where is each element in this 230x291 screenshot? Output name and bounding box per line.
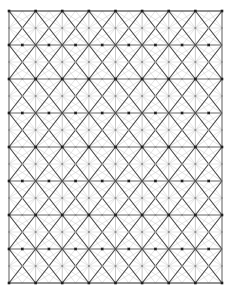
cell-center-dot xyxy=(128,197,130,199)
cell-center-dot xyxy=(75,163,77,165)
edge-midpoint-dot xyxy=(221,197,223,199)
mesh-node xyxy=(128,248,131,251)
mesh-node xyxy=(167,282,170,285)
cell-center-dot xyxy=(155,95,157,97)
edge-midpoint-dot xyxy=(48,282,50,284)
cell-center-dot xyxy=(101,61,103,63)
mesh-node xyxy=(88,78,91,81)
edge-midpoint-dot xyxy=(141,197,143,199)
mesh-node xyxy=(8,180,11,183)
cell-center-dot xyxy=(101,129,103,131)
cell-center-dot xyxy=(48,61,50,63)
edge-midpoint-dot xyxy=(115,61,117,63)
edge-midpoint-dot xyxy=(21,146,23,148)
edge-midpoint-dot xyxy=(88,231,90,233)
mesh-node xyxy=(207,112,210,115)
mesh-node xyxy=(128,112,131,115)
cell-center-dot xyxy=(48,265,50,267)
edge-midpoint-dot xyxy=(208,78,210,80)
cell-center-dot xyxy=(101,231,103,233)
edge-midpoint-dot xyxy=(168,129,170,131)
cell-center-dot xyxy=(208,265,210,267)
cell-center-dot xyxy=(21,129,23,131)
edge-midpoint-dot xyxy=(35,231,37,233)
edge-midpoint-dot xyxy=(168,61,170,63)
mesh-node xyxy=(8,146,11,149)
edge-midpoint-dot xyxy=(141,95,143,97)
mesh-node xyxy=(8,10,11,13)
cell-center-dot xyxy=(21,163,23,165)
cell-center-dot xyxy=(128,231,130,233)
mesh-node xyxy=(34,78,37,81)
mesh-node xyxy=(88,146,91,149)
mesh-node xyxy=(221,78,224,81)
edge-midpoint-dot xyxy=(35,61,37,63)
mesh-node xyxy=(128,180,131,183)
mesh-node xyxy=(154,44,157,47)
edge-midpoint-dot xyxy=(88,27,90,29)
edge-midpoint-dot xyxy=(61,163,63,165)
edge-midpoint-dot xyxy=(115,163,117,165)
edge-midpoint-dot xyxy=(101,10,103,12)
edge-midpoint-dot xyxy=(35,129,37,131)
edge-midpoint-dot xyxy=(61,95,63,97)
mesh-node xyxy=(194,214,197,217)
mesh-node xyxy=(8,282,11,285)
edge-midpoint-dot xyxy=(61,129,63,131)
mesh-node xyxy=(101,44,104,47)
edge-midpoint-dot xyxy=(101,214,103,216)
cell-center-dot xyxy=(155,197,157,199)
cell-center-dot xyxy=(128,265,130,267)
cell-center-dot xyxy=(208,163,210,165)
cell-center-dot xyxy=(48,231,50,233)
edge-midpoint-dot xyxy=(48,10,50,12)
edge-midpoint-dot xyxy=(115,231,117,233)
edge-midpoint-dot xyxy=(21,214,23,216)
cell-center-dot xyxy=(48,95,50,97)
cell-center-dot xyxy=(181,265,183,267)
edge-midpoint-dot xyxy=(194,27,196,29)
edge-midpoint-dot xyxy=(168,163,170,165)
mesh-node xyxy=(221,214,224,217)
mesh-node xyxy=(181,248,184,251)
cell-center-dot xyxy=(21,231,23,233)
cell-center-dot xyxy=(181,231,183,233)
mesh-node xyxy=(141,282,144,285)
edge-midpoint-dot xyxy=(88,61,90,63)
edge-midpoint-dot xyxy=(154,78,156,80)
mesh-node xyxy=(101,180,104,183)
edge-midpoint-dot xyxy=(21,10,23,12)
mesh-node xyxy=(114,214,117,217)
mesh-node xyxy=(194,282,197,285)
cell-center-dot xyxy=(128,129,130,131)
edge-midpoint-dot xyxy=(181,214,183,216)
cell-center-dot xyxy=(75,129,77,131)
edge-midpoint-dot xyxy=(35,163,37,165)
edge-midpoint-dot xyxy=(61,197,63,199)
edge-midpoint-dot xyxy=(8,129,10,131)
cell-center-dot xyxy=(75,95,77,97)
mesh-node xyxy=(181,112,184,115)
mesh-node xyxy=(221,282,224,285)
mesh-node xyxy=(61,146,64,149)
cell-center-dot xyxy=(128,27,130,29)
edge-midpoint-dot xyxy=(88,163,90,165)
mesh-node xyxy=(74,44,77,47)
mesh-node xyxy=(21,112,24,115)
cell-center-dot xyxy=(181,61,183,63)
mesh-node xyxy=(8,248,11,251)
cell-center-dot xyxy=(128,163,130,165)
edge-midpoint-dot xyxy=(8,27,10,29)
cell-center-dot xyxy=(21,197,23,199)
edge-midpoint-dot xyxy=(48,214,50,216)
mesh-node xyxy=(101,112,104,115)
edge-midpoint-dot xyxy=(141,265,143,267)
mesh-node xyxy=(61,282,64,285)
mesh-node xyxy=(101,248,104,251)
cell-center-dot xyxy=(181,129,183,131)
edge-midpoint-dot xyxy=(88,95,90,97)
edge-midpoint-dot xyxy=(128,146,130,148)
mesh-node xyxy=(141,78,144,81)
edge-midpoint-dot xyxy=(221,95,223,97)
cell-center-dot xyxy=(208,197,210,199)
